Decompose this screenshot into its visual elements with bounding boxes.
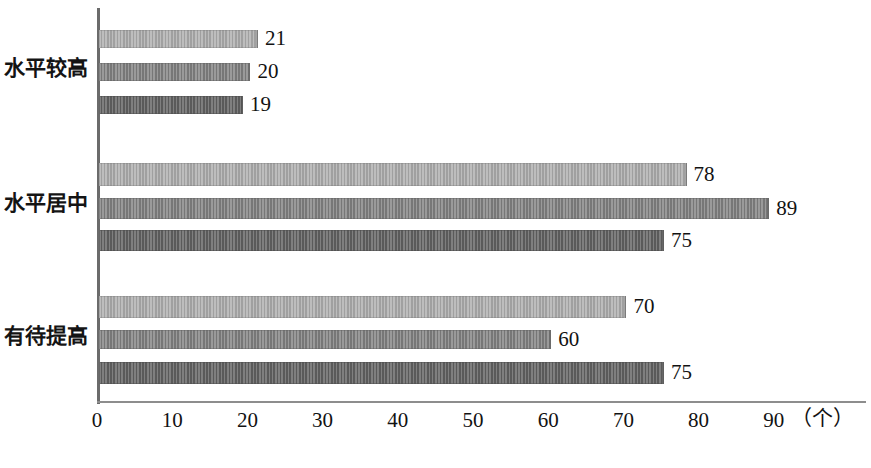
x-axis-unit-label: （个） — [791, 408, 854, 429]
bar-5 — [99, 230, 664, 251]
bar-8 — [99, 362, 664, 384]
x-tick-label-30: 30 — [312, 410, 333, 431]
bar-7 — [99, 330, 551, 349]
bar-2 — [99, 96, 243, 114]
x-tick-label-20: 20 — [237, 410, 258, 431]
x-tick-label-40: 40 — [387, 410, 408, 431]
bar-3 — [99, 163, 687, 186]
bar-value-label-5: 75 — [671, 230, 692, 251]
bar-value-label-4: 89 — [776, 198, 797, 219]
x-tick-label-0: 0 — [92, 410, 103, 431]
bar-1 — [99, 63, 250, 81]
x-tick-label-50: 50 — [463, 410, 484, 431]
category-label-1: 水平居中 — [4, 193, 92, 214]
category-label-0: 水平较高 — [4, 58, 92, 79]
bar-value-label-6: 70 — [633, 296, 654, 317]
x-tick-label-90: 90 — [763, 410, 784, 431]
bar-value-label-3: 78 — [694, 164, 715, 185]
bar-6 — [99, 296, 626, 318]
x-tick-label-80: 80 — [688, 410, 709, 431]
bar-4 — [99, 198, 769, 219]
bar-value-label-7: 60 — [558, 329, 579, 350]
bar-value-label-8: 75 — [671, 362, 692, 383]
bar-value-label-0: 21 — [265, 28, 286, 49]
x-tick-label-60: 60 — [538, 410, 559, 431]
category-label-2: 有待提高 — [4, 326, 92, 347]
x-tick-label-70: 70 — [613, 410, 634, 431]
bar-0 — [99, 30, 258, 48]
x-tick-label-10: 10 — [162, 410, 183, 431]
bar-value-label-2: 19 — [250, 94, 271, 115]
x-axis-line — [97, 401, 866, 403]
bar-value-label-1: 20 — [257, 61, 278, 82]
bar-chart: 水平较高水平居中有待提高 212019788975706075 01020304… — [0, 0, 871, 468]
